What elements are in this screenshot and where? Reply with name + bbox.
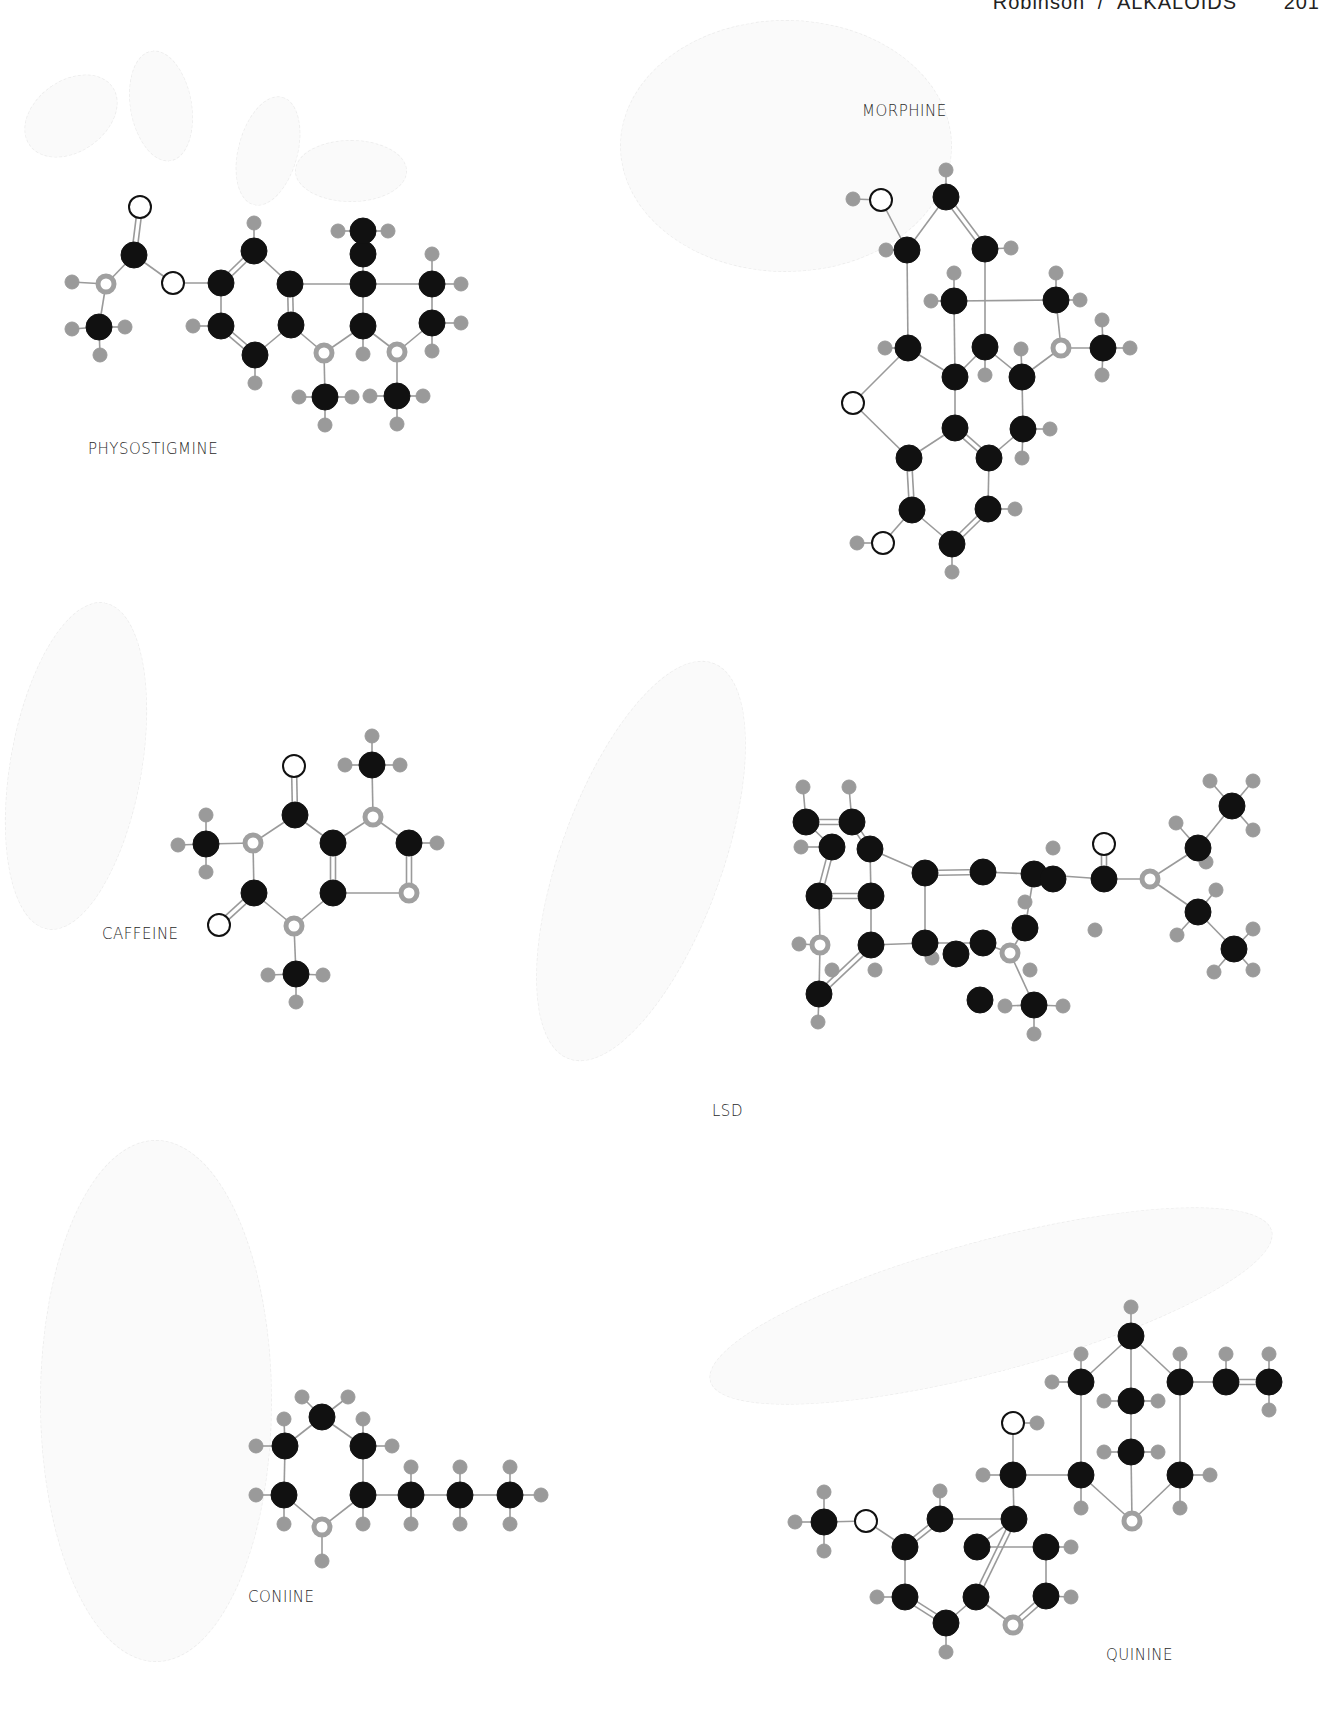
hydrogen-atom-icon <box>1008 502 1022 516</box>
oxygen-atom-icon <box>842 392 864 414</box>
carbon-atom-icon <box>242 342 268 368</box>
carbon-atom-icon <box>912 860 938 886</box>
carbon-atom-icon <box>350 1482 376 1508</box>
carbon-atom-icon <box>811 1509 837 1535</box>
carbon-atom-icon <box>1012 915 1038 941</box>
nitrogen-atom-icon <box>316 345 332 361</box>
hydrogen-atom-icon <box>1095 313 1109 327</box>
hydrogen-atom-icon <box>1097 1445 1111 1459</box>
carbon-atom-icon <box>350 218 376 244</box>
nitrogen-atom-icon <box>389 344 405 360</box>
oxygen-atom-icon <box>208 914 230 936</box>
carbon-atom-icon <box>1000 1462 1026 1488</box>
hydrogen-atom-icon <box>811 1015 825 1029</box>
hydrogen-atom-icon <box>870 1590 884 1604</box>
hydrogen-atom-icon <box>186 319 200 333</box>
hydrogen-atom-icon <box>393 758 407 772</box>
hydrogen-atom-icon <box>453 1517 467 1531</box>
hydrogen-atom-icon <box>171 838 185 852</box>
hydrogen-atom-icon <box>1004 241 1018 255</box>
carbon-atom-icon <box>1185 835 1211 861</box>
carbon-atom-icon <box>271 1482 297 1508</box>
hydrogen-atom-icon <box>1203 774 1217 788</box>
hydrogen-atom-icon <box>1074 1501 1088 1515</box>
hydrogen-atom-icon <box>93 348 107 362</box>
hydrogen-atom-icon <box>345 390 359 404</box>
hydrogen-atom-icon <box>503 1460 517 1474</box>
hydrogen-atom-icon <box>363 389 377 403</box>
hydrogen-atom-icon <box>1027 1027 1041 1041</box>
carbon-atom-icon <box>806 883 832 909</box>
hydrogen-atom-icon <box>1064 1540 1078 1554</box>
hydrogen-atom-icon <box>534 1488 548 1502</box>
hydrogen-atom-icon <box>846 192 860 206</box>
nitrogen-atom-icon <box>365 809 381 825</box>
carbon-atom-icon <box>1009 364 1035 390</box>
oxygen-atom-icon <box>1093 833 1115 855</box>
carbon-atom-icon <box>1090 335 1116 361</box>
carbon-atom-icon <box>892 1534 918 1560</box>
hydrogen-atom-icon <box>1246 963 1260 977</box>
carbon-atom-icon <box>419 271 445 297</box>
carbon-atom-icon <box>972 236 998 262</box>
hydrogen-atom-icon <box>277 1517 291 1531</box>
carbon-atom-icon <box>350 241 376 267</box>
hydrogen-atom-icon <box>947 266 961 280</box>
carbon-atom-icon <box>967 987 993 1013</box>
hydrogen-atom-icon <box>385 1439 399 1453</box>
hydrogen-atom-icon <box>277 1412 291 1426</box>
hydrogen-atom-icon <box>788 1515 802 1529</box>
hydrogen-atom-icon <box>295 1390 309 1404</box>
hydrogen-atom-icon <box>998 999 1012 1013</box>
carbon-atom-icon <box>309 1404 335 1430</box>
hydrogen-atom-icon <box>356 1517 370 1531</box>
carbon-atom-icon <box>839 809 865 835</box>
hydrogen-atom-icon <box>454 316 468 330</box>
hydrogen-atom-icon <box>1203 1468 1217 1482</box>
hydrogen-atom-icon <box>199 865 213 879</box>
hydrogen-atom-icon <box>249 1488 263 1502</box>
hydrogen-atom-icon <box>1151 1445 1165 1459</box>
carbon-atom-icon <box>912 930 938 956</box>
carbon-atom-icon <box>1010 416 1036 442</box>
carbon-atom-icon <box>312 384 338 410</box>
carbon-atom-icon <box>359 752 385 778</box>
carbon-atom-icon <box>121 242 147 268</box>
hydrogen-atom-icon <box>416 389 430 403</box>
hydrogen-atom-icon <box>1123 341 1137 355</box>
hydrogen-atom-icon <box>817 1544 831 1558</box>
carbon-atom-icon <box>350 1433 376 1459</box>
carbon-atom-icon <box>858 883 884 909</box>
hydrogen-atom-icon <box>1170 928 1184 942</box>
hydrogen-atom-icon <box>404 1517 418 1531</box>
hydrogen-atom-icon <box>338 758 352 772</box>
carbon-atom-icon <box>1033 1583 1059 1609</box>
molecule-label-quinine: QUININE <box>1106 1646 1173 1664</box>
hydrogen-atom-icon <box>1045 1375 1059 1389</box>
molecule-label-physostigmine: PHYSOSTIGMINE <box>88 440 218 458</box>
carbon-atom-icon <box>384 383 410 409</box>
carbon-atom-icon <box>1068 1462 1094 1488</box>
carbon-atom-icon <box>857 836 883 862</box>
carbon-atom-icon <box>282 802 308 828</box>
carbon-atom-icon <box>896 445 922 471</box>
carbon-atom-icon <box>277 271 303 297</box>
hydrogen-atom-icon <box>1095 368 1109 382</box>
hydrogen-atom-icon <box>381 224 395 238</box>
carbon-atom-icon <box>793 809 819 835</box>
oxygen-atom-icon <box>129 196 151 218</box>
hydrogen-atom-icon <box>1049 266 1063 280</box>
carbon-atom-icon <box>419 310 445 336</box>
hydrogen-atom-icon <box>1030 1416 1044 1430</box>
carbon-atom-icon <box>942 364 968 390</box>
hydrogen-atom-icon <box>1173 1347 1187 1361</box>
molecule-quinine <box>788 1300 1282 1659</box>
hydrogen-atom-icon <box>1064 1590 1078 1604</box>
hydrogen-atom-icon <box>315 1554 329 1568</box>
hydrogen-atom-icon <box>316 968 330 982</box>
carbon-atom-icon <box>1167 1369 1193 1395</box>
hydrogen-atom-icon <box>404 1460 418 1474</box>
carbon-atom-icon <box>278 312 304 338</box>
carbon-atom-icon <box>1043 287 1069 313</box>
carbon-atom-icon <box>283 961 309 987</box>
